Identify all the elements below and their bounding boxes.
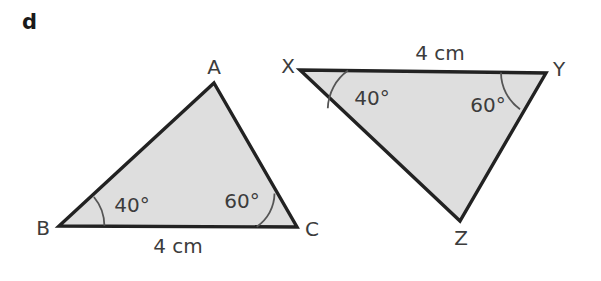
side-label-bc-4cm: 4 cm (153, 234, 203, 258)
triangle-xyz-shape (300, 70, 546, 221)
side-label-xy-4cm: 4 cm (415, 41, 465, 65)
vertex-label-c: C (305, 217, 319, 241)
figure-canvas: d A B C 40° 60° 4 cm X Y Z 40° (0, 0, 601, 281)
angle-label-y-60: 60° (470, 93, 505, 117)
vertex-label-z: Z (454, 226, 468, 250)
geometry-figure: A B C 40° 60° 4 cm X Y Z 40° 60° 4 cm (0, 0, 601, 281)
triangle-xyz: X Y Z 40° 60° 4 cm (281, 41, 566, 250)
angle-label-x-40: 40° (354, 86, 389, 110)
vertex-label-y: Y (552, 57, 566, 81)
triangle-abc: A B C 40° 60° 4 cm (36, 55, 319, 258)
triangle-abc-shape (59, 83, 297, 227)
vertex-label-b: B (36, 216, 50, 240)
vertex-label-a: A (207, 55, 221, 79)
angle-label-c-60: 60° (224, 189, 259, 213)
vertex-label-x: X (281, 54, 295, 78)
angle-label-b-40: 40° (114, 193, 149, 217)
